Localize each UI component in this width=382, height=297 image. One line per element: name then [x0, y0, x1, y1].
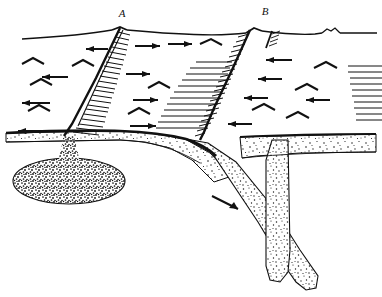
surface-left-block	[22, 30, 112, 39]
fault-b-hachures	[195, 34, 249, 136]
chevron-mark-10	[252, 104, 275, 110]
ground-surface	[22, 27, 377, 39]
arrow-left-2	[42, 74, 68, 80]
chevron-mark-6	[200, 39, 222, 45]
arrow-mid-right-1	[135, 43, 160, 49]
chevron-mark-1	[22, 58, 44, 64]
surface-mid-block	[127, 30, 246, 35]
arrow-right-4	[228, 121, 252, 127]
arrow-right-2	[258, 76, 282, 82]
arrow-mid-right-4	[130, 123, 156, 129]
chevron-mark-3	[28, 105, 50, 111]
chevron-mark-4	[72, 60, 94, 66]
geologic-cross-section-figure: A B	[0, 0, 382, 297]
arrow-left-1	[22, 100, 50, 106]
chevron-mark-2	[30, 79, 52, 85]
fault-b	[156, 30, 382, 140]
cross-section-drawing: A B	[0, 0, 382, 297]
surface-bump	[322, 28, 340, 33]
vertical-conduit	[266, 140, 290, 282]
arrow-mid-right-3	[133, 97, 158, 103]
chevron-mark-11	[314, 62, 337, 68]
arrow-mid-right-2	[126, 71, 150, 77]
magma-chamber	[13, 158, 125, 204]
arrow-left-4	[86, 46, 108, 52]
arrow-right-3	[244, 95, 268, 101]
fault-label-a: A	[118, 7, 126, 19]
chevron-mark-7	[128, 108, 150, 114]
chevron-mark-8	[295, 84, 318, 90]
crust-bodies	[6, 131, 376, 290]
chevron-mark-9	[286, 112, 309, 118]
arrow-right-1	[266, 57, 292, 63]
fault-a-gouge	[78, 30, 123, 126]
arrow-slab-down	[212, 196, 238, 209]
fault-a	[64, 28, 130, 136]
small-fault-right-of-b	[266, 31, 280, 48]
arrow-right-5	[306, 97, 330, 103]
fault-label-b: B	[262, 5, 269, 17]
chevron-mark-5	[148, 82, 170, 88]
crust-layer-right	[240, 134, 376, 158]
arrow-mid-right-5	[168, 41, 192, 47]
fault-a-plane	[64, 28, 120, 136]
left-extension-hatching	[348, 66, 382, 120]
